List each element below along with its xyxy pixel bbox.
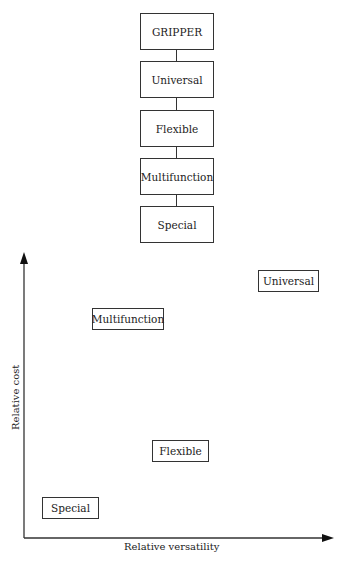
chart-point-multifunction: Multifunction bbox=[92, 308, 164, 330]
chart-point-special: Special bbox=[42, 497, 99, 519]
chart-point-universal: Universal bbox=[258, 270, 319, 292]
x-axis-arrow-icon bbox=[322, 534, 334, 542]
chart-point-label: Special bbox=[51, 502, 90, 514]
x-axis-label: Relative versatility bbox=[124, 541, 219, 552]
chart-point-label: Universal bbox=[263, 275, 314, 287]
chart-point-flexible: Flexible bbox=[152, 440, 209, 462]
chart-point-label: Multifunction bbox=[92, 313, 164, 325]
chart-point-label: Flexible bbox=[159, 445, 201, 457]
y-axis-label: Relative cost bbox=[10, 365, 21, 430]
y-axis-arrow-icon bbox=[20, 252, 28, 264]
